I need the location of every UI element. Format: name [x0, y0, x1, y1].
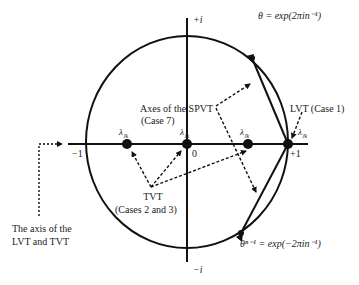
lambda-origin-label: λJk — [180, 127, 189, 142]
imag-top-label: +i — [193, 14, 203, 25]
origin-label: 0 — [192, 148, 197, 159]
point-theta-top — [249, 55, 255, 61]
lvt-label: LVT (Case 1) — [290, 103, 344, 114]
spvt-label-line1: Axes of the SPVT — [140, 103, 213, 114]
real-left-label: −1 — [72, 148, 83, 159]
theta-top-formula: θ = exp(2πin⁻¹) — [258, 10, 321, 21]
chord-theta-bottom — [241, 144, 288, 233]
chord-theta-top — [252, 58, 288, 144]
axis-label-line1: The axis of the — [12, 223, 72, 234]
imag-bottom-label: −i — [193, 264, 203, 275]
lambda-left-label: λJk — [119, 127, 128, 142]
tvt-label-line2: (Cases 2 and 3) — [115, 204, 177, 215]
tvt-label-line1: TVT — [138, 191, 168, 202]
lambda-right-label: λJk — [240, 127, 249, 142]
spvt-label-line2: (Case 7) — [141, 115, 175, 126]
theta-bottom-formula: θⁿ⁻¹ = exp(−2πin⁻¹) — [240, 238, 321, 249]
point-theta-bottom — [238, 230, 244, 236]
unit-circle-diagram: +i −i −1 +1 0 λJk λJk λJk λJk θ = exp(2π… — [0, 0, 359, 285]
lambda-plus1-label: λJk — [298, 127, 307, 142]
axis-label-line2: LVT and TVT — [12, 236, 69, 247]
real-right-label: +1 — [290, 148, 301, 159]
